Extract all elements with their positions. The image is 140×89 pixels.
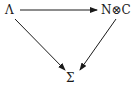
arrow-tensor-to-sigma [80,19,116,70]
node-tensor: N⊗C [101,3,131,17]
arrow-lambda-to-sigma [15,19,65,70]
commutative-diagram: Λ N⊗C Σ [0,0,140,89]
node-sigma: Σ [66,71,74,85]
node-lambda: Λ [5,3,14,17]
